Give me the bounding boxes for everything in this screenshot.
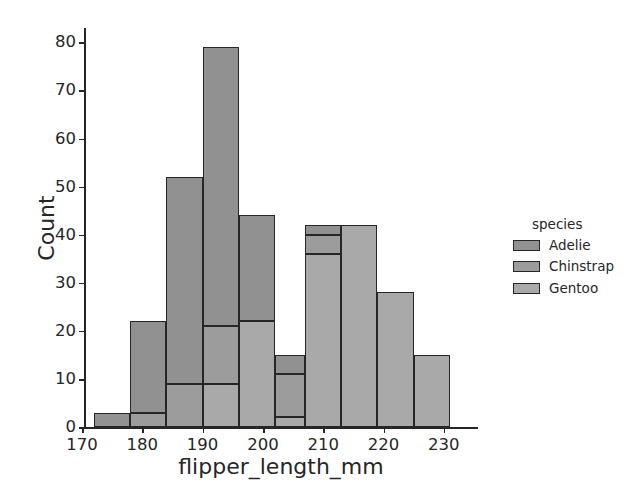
y-tick-20 bbox=[79, 331, 84, 333]
bars-container bbox=[85, 28, 477, 427]
legend-swatch-adelie bbox=[513, 240, 540, 251]
y-tick-40 bbox=[79, 235, 84, 237]
bar-segment bbox=[94, 413, 130, 427]
bar-segment bbox=[130, 413, 166, 427]
legend-label-gentoo: Gentoo bbox=[549, 282, 598, 296]
bar-segment bbox=[239, 215, 275, 321]
y-tick-30 bbox=[79, 283, 84, 285]
bar-segment bbox=[203, 326, 239, 384]
y-tick-label-80: 80 bbox=[55, 34, 76, 51]
y-tick-label-70: 70 bbox=[55, 82, 76, 99]
x-tick-170 bbox=[82, 428, 84, 433]
bar-segment bbox=[166, 177, 202, 384]
y-tick-70 bbox=[79, 90, 84, 92]
bar-segment bbox=[305, 225, 341, 235]
x-tick-200 bbox=[263, 428, 265, 433]
bar-segment bbox=[377, 292, 413, 427]
bar-segment bbox=[341, 225, 377, 427]
x-tick-180 bbox=[142, 428, 144, 433]
legend-label-adelie: Adelie bbox=[549, 239, 591, 253]
x-tick-220 bbox=[384, 428, 386, 433]
legend-item-adelie[interactable]: Adelie bbox=[513, 239, 633, 253]
y-tick-label-60: 60 bbox=[55, 130, 76, 147]
bar-segment bbox=[239, 321, 275, 427]
plot-axes: 01020304050607080170180190200210220230 bbox=[85, 28, 477, 427]
y-tick-label-0: 0 bbox=[66, 419, 77, 436]
bar-segment bbox=[414, 355, 450, 427]
y-tick-label-20: 20 bbox=[55, 323, 76, 340]
y-tick-60 bbox=[79, 139, 84, 141]
x-tick-190 bbox=[203, 428, 205, 433]
y-tick-10 bbox=[79, 379, 84, 381]
x-tick-label-210: 210 bbox=[307, 437, 339, 454]
legend-swatch-chinstrap bbox=[513, 261, 540, 272]
y-tick-label-30: 30 bbox=[55, 275, 76, 292]
x-tick-label-200: 200 bbox=[247, 437, 279, 454]
x-tick-label-220: 220 bbox=[368, 437, 400, 454]
legend-entries: AdelieChinstrapGentoo bbox=[513, 239, 633, 296]
bar-segment bbox=[166, 384, 202, 427]
bar-segment bbox=[305, 235, 341, 254]
x-tick-210 bbox=[323, 428, 325, 433]
x-tick-230 bbox=[444, 428, 446, 433]
bar-segment bbox=[275, 374, 305, 417]
figure-canvas: Count 0102030405060708017018019020021022… bbox=[0, 0, 642, 498]
y-tick-label-40: 40 bbox=[55, 226, 76, 243]
bar-segment bbox=[275, 417, 305, 427]
x-tick-label-180: 180 bbox=[127, 437, 159, 454]
x-tick-label-190: 190 bbox=[187, 437, 219, 454]
bar-segment bbox=[130, 321, 166, 412]
legend-title: species bbox=[532, 218, 633, 232]
bar-segment bbox=[203, 384, 239, 427]
y-tick-80 bbox=[79, 42, 84, 44]
x-axis-label: flipper_length_mm bbox=[85, 456, 477, 478]
bar-segment bbox=[305, 254, 341, 427]
legend-label-chinstrap: Chinstrap bbox=[549, 260, 614, 274]
legend-swatch-gentoo bbox=[513, 283, 540, 294]
y-tick-label-50: 50 bbox=[55, 178, 76, 195]
legend-item-chinstrap[interactable]: Chinstrap bbox=[513, 260, 633, 274]
legend-item-gentoo[interactable]: Gentoo bbox=[513, 282, 633, 296]
y-tick-label-10: 10 bbox=[55, 371, 76, 388]
x-tick-label-170: 170 bbox=[66, 437, 98, 454]
legend: species AdelieChinstrapGentoo bbox=[513, 218, 633, 303]
bar-segment bbox=[275, 355, 305, 374]
bar-segment bbox=[203, 47, 239, 326]
x-tick-label-230: 230 bbox=[428, 437, 460, 454]
y-tick-50 bbox=[79, 187, 84, 189]
